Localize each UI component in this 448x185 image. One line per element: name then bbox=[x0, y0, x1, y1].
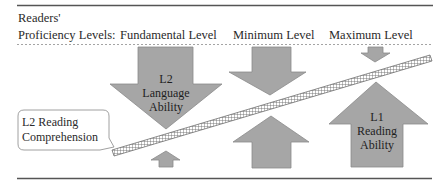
l1-reading-ability-line1: L1 bbox=[349, 110, 405, 124]
l2-language-ability-line2: Language bbox=[136, 86, 196, 100]
l2-language-ability-label: L2 Language Ability bbox=[136, 72, 196, 114]
minimum-level-down-arrow bbox=[229, 47, 306, 95]
l1-reading-ability-line2: Reading bbox=[349, 124, 405, 138]
minimum-level-up-arrow bbox=[233, 116, 309, 168]
level-fundamental: Fundamental Level bbox=[120, 28, 217, 43]
fundamental-level-up-arrow bbox=[151, 151, 180, 167]
l1-reading-ability-label: L1 Reading Ability bbox=[349, 110, 405, 152]
level-maximum: Maximum Level bbox=[329, 28, 413, 43]
l1-reading-ability-line3: Ability bbox=[349, 138, 405, 152]
l2-language-ability-line3: Ability bbox=[136, 100, 196, 114]
readers-label: Readers' bbox=[18, 11, 61, 26]
l2-language-ability-line1: L2 bbox=[136, 72, 196, 86]
callout-label: L2 Reading Comprehension bbox=[22, 115, 98, 145]
maximum-level-down-arrow bbox=[361, 47, 390, 62]
proficiency-levels-label: Proficiency Levels: bbox=[18, 28, 116, 43]
level-minimum: Minimum Level bbox=[233, 28, 315, 43]
callout-line1: L2 Reading bbox=[22, 115, 98, 130]
callout-line2: Comprehension bbox=[22, 130, 98, 145]
